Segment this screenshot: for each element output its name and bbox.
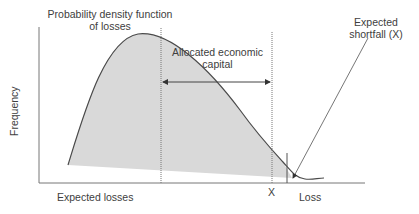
x-axis-label: Loss [299, 191, 321, 203]
pdf-label-line1: Probability density function [40, 8, 180, 20]
shortfall-pointer [293, 38, 368, 178]
capital-label-line2: capital [165, 58, 270, 70]
shortfall-label-line2: shortfall (X) [340, 28, 412, 40]
pdf-label-line2: of losses [40, 20, 180, 32]
shortfall-label-line1: Expected [340, 16, 412, 28]
expected-losses-label: Expected losses [57, 191, 133, 203]
shortfall-label: Expected shortfall (X) [340, 16, 412, 40]
capital-label: Allocated economic capital [165, 46, 270, 70]
x-marker-label: X [268, 186, 275, 198]
pdf-label: Probability density function of losses [40, 8, 180, 32]
y-axis-label: Frequency [8, 86, 20, 136]
capital-label-line1: Allocated economic [165, 46, 270, 58]
